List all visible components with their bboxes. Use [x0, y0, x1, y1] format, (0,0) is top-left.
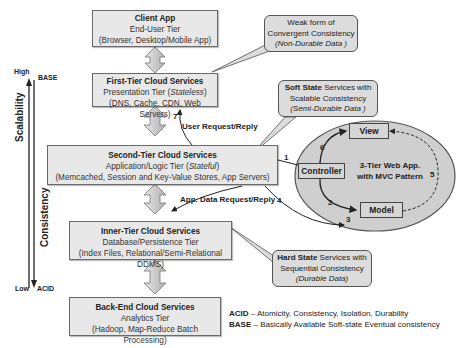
tier-subtitle: Database/Persistence Tier	[70, 237, 231, 248]
weak-consistency-callout: Weak form of Convergent Consistency (Non…	[264, 15, 358, 52]
tier-subtitle: Application/Logic Tier (Stateful)	[48, 161, 277, 172]
tier-title: Back-End Cloud Services	[70, 302, 220, 313]
step-1: 1	[284, 153, 288, 162]
consistency-label: Consistency	[39, 188, 50, 247]
callout-line: Sequential Consistency	[273, 264, 371, 275]
step-3: 3	[346, 215, 350, 224]
callout-bold: Hard State	[277, 253, 317, 262]
user-request-label: User Request/Reply	[182, 122, 258, 131]
callout-line: (Non-Durable Data )	[275, 39, 347, 48]
consistency-axis	[31, 80, 37, 288]
subtitle-italic: Stateful	[189, 162, 217, 171]
step-4: 4	[277, 196, 281, 205]
double-arrow-3	[144, 184, 166, 214]
callout-line: Hard State Services with	[273, 253, 371, 264]
axis-low-label: Low	[15, 285, 29, 292]
tier-detail: (Browser, Desktop/Mobile App)	[93, 35, 217, 46]
tier-title: First-Tier Cloud Services	[93, 76, 217, 87]
subtitle-suffix: )	[204, 88, 207, 97]
tier-subtitle: End-User Tier	[93, 24, 217, 35]
tier-detail: (Index Files, Relational/Semi-Relational…	[70, 248, 231, 270]
mvc-title-line: 3-Tier Web App.	[354, 160, 426, 171]
axis-acid-label: ACID	[37, 285, 54, 292]
controller-box: Controller	[298, 163, 345, 179]
callout-line: Weak form of	[265, 18, 357, 29]
callout-line: (Durable Data)	[296, 274, 348, 283]
step-2: 2	[328, 198, 332, 207]
tier-detail: (Memcached, Session and Key-Value Stores…	[48, 172, 277, 183]
legend-base: BASE – Basically Available Soft-state Ev…	[229, 319, 440, 330]
subtitle-italic: Stateless	[170, 88, 204, 97]
callout-bold: Soft State	[285, 83, 322, 92]
tier-title: Second-Tier Cloud Services	[48, 150, 277, 161]
second-tier-box: Second-Tier Cloud Services Application/L…	[47, 145, 278, 185]
double-arrow-1	[145, 47, 165, 73]
legend-desc: – Basically Available Soft-state Eventua…	[251, 320, 439, 329]
model-box: Model	[360, 202, 403, 218]
axis-high-label: High	[14, 68, 30, 75]
app-data-request-label: App. Data Request/Reply	[180, 195, 275, 204]
mvc-title: 3-Tier Web App. with MVC Pattern	[354, 160, 426, 182]
subtitle-prefix: Presentation Tier (	[103, 88, 170, 97]
mvc-title-line: with MVC Pattern	[354, 171, 426, 182]
subtitle-suffix: )	[216, 162, 219, 171]
view-box: View	[349, 123, 389, 139]
callout-line: Scalable Consistency	[279, 94, 377, 105]
callout-line: (Semi-Durable Data )	[290, 104, 366, 113]
tier-title: Client App	[93, 13, 217, 24]
scalability-axis	[26, 78, 32, 288]
step-5: 5	[430, 170, 434, 179]
legend-desc: – Atomicity, Consistency, Isolation, Dur…	[249, 309, 409, 318]
tier-subtitle: Presentation Tier (Stateless)	[93, 87, 217, 98]
scalability-label: Scalability	[14, 93, 25, 142]
callout-rest: Services with	[317, 253, 366, 262]
hard-state-callout: Hard State Services with Sequential Cons…	[272, 250, 372, 287]
back-end-tier-box: Back-End Cloud Services Analytics Tier (…	[69, 297, 221, 336]
first-tier-box: First-Tier Cloud Services Presentation T…	[92, 73, 218, 107]
legend-key: BASE	[229, 320, 251, 329]
step-6: 6	[320, 143, 324, 152]
soft-state-callout: Soft State Services with Scalable Consis…	[278, 80, 378, 117]
callout-line: Convergent Consistency	[265, 29, 357, 40]
tier-subtitle: Analytics Tier	[70, 313, 220, 324]
subtitle-prefix: Application/Logic Tier (	[106, 162, 189, 171]
axis-base-label: BASE	[38, 74, 57, 81]
step-7: 7	[173, 112, 177, 121]
inner-tier-box: Inner-Tier Cloud Services Database/Persi…	[69, 221, 232, 260]
legend-acid: ACID – Atomicity, Consistency, Isolation…	[229, 308, 408, 319]
tier-detail: (DNS, Cache, CDN, Web Servers)	[93, 98, 217, 120]
tier-detail: (Hadoop, Map-Reduce Batch Processing)	[70, 324, 220, 346]
legend-key: ACID	[229, 309, 249, 318]
client-app-tier: Client App End-User Tier (Browser, Deskt…	[92, 10, 218, 47]
callout-rest: Services with	[322, 83, 371, 92]
callout-line: Soft State Services with	[279, 83, 377, 94]
tier-title: Inner-Tier Cloud Services	[70, 226, 231, 237]
